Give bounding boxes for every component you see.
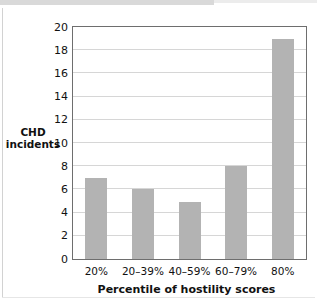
x-axis-tick-label: 80% xyxy=(259,265,306,277)
x-axis-tick-label: 40–59% xyxy=(166,265,213,277)
y-axis: 02468101214161820 xyxy=(36,0,68,302)
y-axis-tick-label: 8 xyxy=(38,161,68,172)
x-axis-tick-label: 60–79% xyxy=(213,265,260,277)
x-axis-title: Percentile of hostility scores xyxy=(0,283,317,296)
y-axis-tick-label: 20 xyxy=(38,22,68,33)
scan-artifact-band xyxy=(0,0,214,5)
y-axis-tick-label: 2 xyxy=(38,230,68,241)
y-axis-title: CHD incidents xyxy=(4,126,62,150)
bar xyxy=(225,166,247,259)
plot-area xyxy=(72,26,307,260)
bar xyxy=(85,178,107,259)
y-axis-tick-label: 16 xyxy=(38,68,68,79)
y-axis-tick-label: 0 xyxy=(38,254,68,265)
bar xyxy=(272,39,294,259)
x-axis-tick-label: 20% xyxy=(73,265,120,277)
y-axis-tick-label: 6 xyxy=(38,184,68,195)
x-axis-tick-label: 20–39% xyxy=(120,265,167,277)
scan-artifact-left-rule xyxy=(2,8,3,297)
y-axis-tick-label: 18 xyxy=(38,45,68,56)
y-axis-tick-label: 14 xyxy=(38,91,68,102)
y-axis-tick-label: 12 xyxy=(38,114,68,125)
y-axis-tick-label: 4 xyxy=(38,207,68,218)
bar xyxy=(132,189,154,259)
y-axis-title-line-2: incidents xyxy=(4,138,62,150)
bar xyxy=(179,202,201,259)
y-axis-title-line-1: CHD xyxy=(4,126,62,138)
scan-artifact-band-right xyxy=(214,0,317,3)
chart-figure: 02468101214161820 CHD incidents Percenti… xyxy=(0,0,317,302)
